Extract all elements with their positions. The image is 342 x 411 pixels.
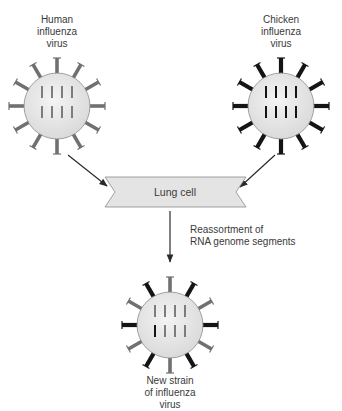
spike-icon [239, 122, 254, 131]
chicken-virus-icon [233, 58, 329, 154]
spike-icon [197, 341, 212, 350]
spike-icon [146, 352, 155, 367]
spike-icon [33, 64, 42, 79]
chicken-virus-label: Chicken influenza virus [251, 14, 311, 50]
spike-icon [297, 133, 306, 148]
spike-icon [73, 64, 82, 79]
spike-icon [186, 283, 195, 298]
spike-icon [128, 341, 143, 350]
virus-body [24, 73, 90, 139]
lung-cell-label: Lung cell [125, 186, 225, 198]
spike-icon [308, 122, 323, 131]
spike-icon [128, 301, 143, 310]
virus-body [248, 73, 314, 139]
reassortment-label: Reassortment of RNA genome segments [190, 224, 320, 248]
spike-icon [257, 133, 266, 148]
spike-icon [197, 301, 212, 310]
spike-icon [84, 122, 99, 131]
arrow-human-to-cell [68, 155, 107, 186]
new-strain-label: New strain of influenza virus [130, 375, 210, 411]
spike-icon [239, 82, 254, 91]
new-strain-virus-icon [122, 277, 218, 373]
spike-icon [15, 82, 30, 91]
spike-icon [73, 133, 82, 148]
spike-icon [297, 64, 306, 79]
arrow-chicken-to-cell [240, 155, 275, 187]
spike-icon [84, 82, 99, 91]
human-virus-label: Human influenza virus [27, 14, 87, 50]
spike-icon [257, 64, 266, 79]
spike-icon [146, 283, 155, 298]
virus-body [137, 292, 203, 358]
human-virus-icon [9, 58, 105, 154]
spike-icon [308, 82, 323, 91]
spike-icon [33, 133, 42, 148]
spike-icon [15, 122, 30, 131]
spike-icon [186, 352, 195, 367]
